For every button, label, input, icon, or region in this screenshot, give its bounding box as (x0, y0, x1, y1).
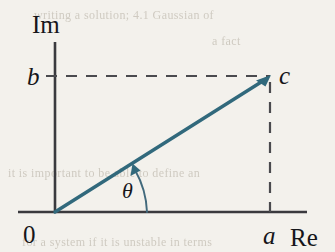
angle-label: θ (122, 178, 133, 203)
imaginary-component-label: b (27, 63, 40, 90)
complex-point-label: c (279, 62, 290, 89)
argand-diagram: Im Re 0 b a c θ (0, 0, 335, 252)
real-axis-label: Re (290, 224, 318, 251)
angle-arc (135, 170, 147, 212)
origin-label: 0 (23, 221, 36, 248)
real-component-label: a (263, 222, 276, 249)
imaginary-axis-label: Im (32, 11, 60, 38)
complex-vector (55, 79, 266, 212)
